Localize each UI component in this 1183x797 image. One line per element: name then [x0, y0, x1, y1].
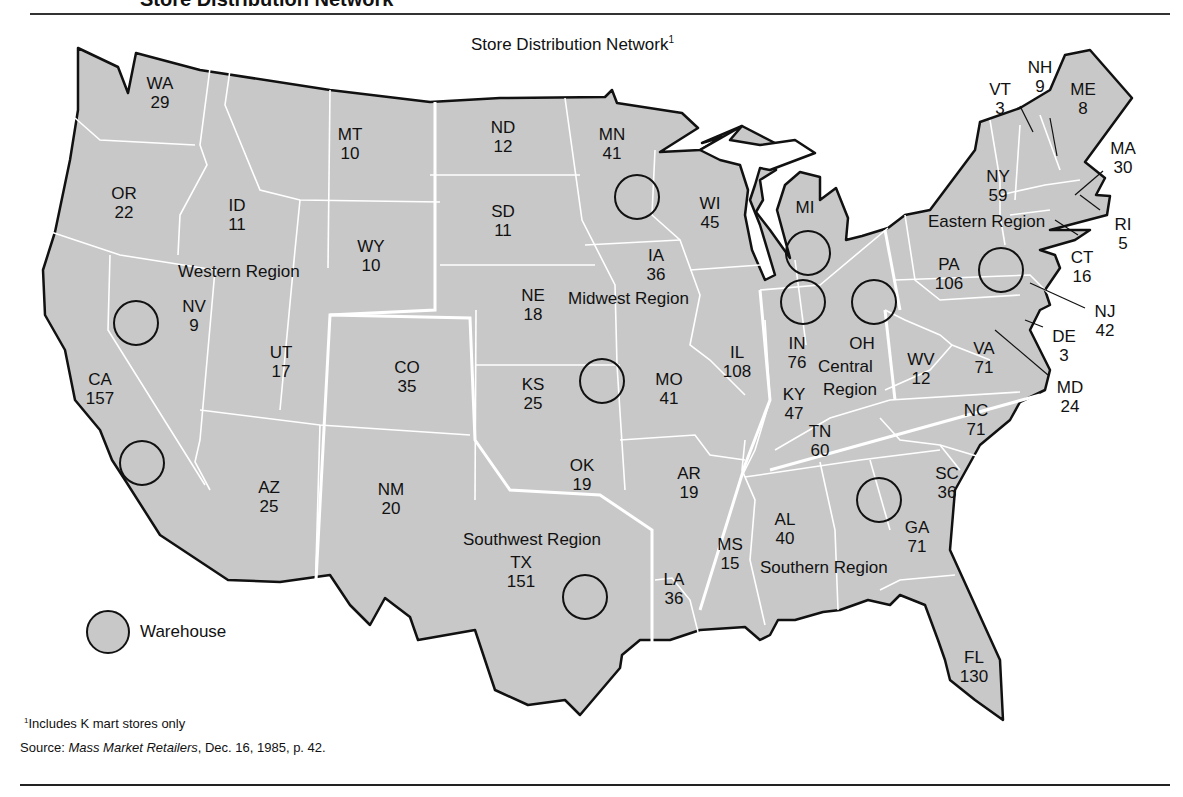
source-publication: Mass Market Retailers — [68, 740, 197, 755]
state-label-nh: NH9 — [1028, 58, 1053, 96]
state-label-oh: OH — [849, 334, 875, 353]
state-label-ut: UT17 — [270, 343, 293, 381]
state-label-mt: MT10 — [338, 125, 363, 163]
state-label-al: AL40 — [775, 510, 796, 548]
state-label-nj: NJ42 — [1095, 302, 1116, 340]
state-label-ct: CT16 — [1071, 248, 1094, 286]
state-label-vt: VT3 — [989, 80, 1011, 118]
state-label-ca: CA157 — [86, 370, 114, 408]
state-label-ga: GA71 — [905, 518, 930, 556]
state-label-ri: RI5 — [1115, 215, 1132, 253]
state-label-tx: TX151 — [507, 553, 535, 591]
state-label-ks: KS25 — [522, 375, 545, 413]
state-label-va: VA71 — [973, 339, 994, 377]
state-label-ar: AR19 — [677, 464, 701, 502]
state-label-sd: SD11 — [491, 202, 515, 240]
state-label-co: CO35 — [394, 358, 420, 396]
us-map — [0, 0, 1183, 797]
state-label-sc: SC36 — [935, 464, 959, 502]
source-citation: Source: Mass Market Retailers, Dec. 16, … — [20, 740, 326, 755]
legend: Warehouse — [86, 610, 226, 654]
state-label-la: LA36 — [664, 570, 685, 608]
state-label-md: MD24 — [1057, 378, 1083, 416]
state-label-wv: WV12 — [907, 350, 934, 388]
state-label-mn: MN41 — [599, 125, 625, 163]
state-label-wa: WA29 — [147, 74, 174, 112]
state-label-ok: OK19 — [570, 456, 595, 494]
state-label-nc: NC71 — [964, 401, 989, 439]
region-label-southern: Southern Region — [760, 558, 888, 578]
state-label-ma: MA30 — [1110, 139, 1136, 177]
legend-label: Warehouse — [140, 622, 226, 642]
region-label-central-1: Central — [818, 357, 873, 377]
state-label-nd: ND12 — [491, 118, 516, 156]
state-label-mo: MO41 — [655, 370, 682, 408]
state-label-ia: IA36 — [647, 246, 666, 284]
state-label-or: OR22 — [111, 184, 137, 222]
region-label-eastern: Eastern Region — [928, 212, 1045, 232]
state-label-pa: PA106 — [935, 255, 963, 293]
state-label-il: IL108 — [723, 343, 751, 381]
state-label-me: ME8 — [1070, 80, 1096, 118]
state-label-ny: NY59 — [986, 167, 1010, 205]
state-label-nm: NM20 — [378, 480, 404, 518]
state-label-ky: KY47 — [783, 385, 806, 423]
state-label-de: DE3 — [1052, 327, 1076, 365]
bottom-rule — [20, 784, 1170, 786]
state-label-ms: MS15 — [717, 535, 743, 573]
source-prefix: Source: — [20, 740, 68, 755]
region-label-western: Western Region — [178, 262, 300, 282]
state-label-id: ID11 — [228, 196, 246, 234]
region-label-central-2: Region — [823, 380, 877, 400]
state-label-wy: WY10 — [357, 237, 384, 275]
region-label-midwest: Midwest Region — [568, 289, 689, 309]
state-label-wi: WI45 — [700, 194, 721, 232]
state-label-az: AZ25 — [258, 478, 280, 516]
warehouse-icon — [86, 610, 130, 654]
state-label-ne: NE18 — [521, 286, 545, 324]
state-label-in: IN76 — [788, 334, 807, 372]
footnote: 1Includes K mart stores only — [24, 716, 185, 731]
region-label-southwest: Southwest Region — [463, 530, 601, 550]
source-suffix: , Dec. 16, 1985, p. 42. — [198, 740, 326, 755]
state-label-nv: NV9 — [182, 297, 206, 335]
state-label-tn: TN60 — [809, 422, 832, 460]
footnote-text: Includes K mart stores only — [28, 716, 185, 731]
state-label-fl: FL130 — [960, 648, 988, 686]
state-label-mi: MI — [796, 198, 815, 217]
